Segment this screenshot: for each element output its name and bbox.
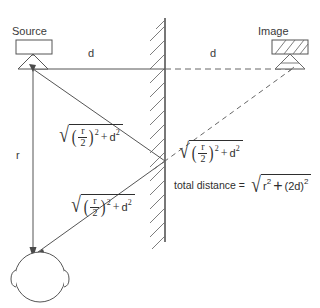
paren-close: ) (101, 198, 106, 215)
reflection-geometry-svg (0, 0, 320, 308)
exponent-d-2: 2 (128, 198, 132, 207)
source-label: Source (12, 26, 47, 37)
r-label: r (16, 150, 20, 161)
image-label: Image (258, 26, 289, 37)
d-left-label: d (88, 48, 94, 59)
wall-icon (150, 18, 165, 249)
mirrored-lamp-icon (272, 40, 308, 72)
expression-leg-virtual: √ ( r 2 ) 2 + d 2 (178, 140, 243, 164)
paren-open: ( (84, 198, 89, 215)
radical-sign-icon: √ (179, 140, 189, 164)
paren-open: ( (192, 144, 197, 161)
plus-operator: + (219, 146, 230, 161)
diagram-canvas: Source Image d d r √ ( r 2 ) 2 + d 2 √ (0, 0, 320, 308)
exponent-d-2: 2 (236, 144, 240, 153)
radical-sign-icon: √ (251, 174, 261, 196)
total-distance-label: total distance = (174, 179, 245, 191)
exponent-2: 2 (107, 198, 111, 207)
plus-operator: + (111, 200, 122, 215)
plus-operator: + (271, 177, 284, 195)
total-distance-equation: total distance = √ r 2 + (2d) 2 (174, 174, 311, 196)
lamp-icon (16, 40, 52, 72)
exponent-2d-2: 2 (304, 177, 308, 186)
radical-sign-icon: √ (59, 124, 69, 148)
paren-close: ) (209, 144, 214, 161)
d-right-label: d (210, 48, 216, 59)
exponent-2: 2 (95, 128, 99, 137)
fraction-r-over-2: r 2 (90, 196, 99, 218)
radical-sign-icon: √ (71, 194, 81, 218)
exponent-d-2: 2 (116, 128, 120, 137)
paren-open: ( (72, 128, 77, 145)
plus-operator: + (99, 130, 110, 145)
exponent-r-2: 2 (267, 177, 271, 186)
fraction-r-over-2: r 2 (78, 126, 87, 148)
expression-leg-lower: √ ( r 2 ) 2 + d 2 (70, 194, 135, 218)
fraction-r-over-2: r 2 (198, 142, 207, 164)
paren-close: ) (89, 128, 94, 145)
head-icon (11, 252, 69, 302)
exponent-2: 2 (215, 144, 219, 153)
term-2d: (2d) (284, 180, 304, 192)
expression-leg-upper: √ ( r 2 ) 2 + d 2 (58, 124, 123, 148)
